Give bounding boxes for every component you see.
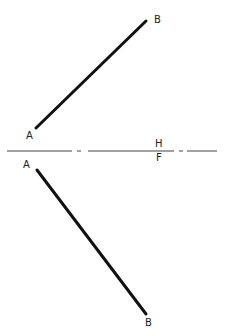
label-fold-h: H xyxy=(155,139,163,149)
label-bottom-b: B xyxy=(145,318,152,328)
top-view-line-ab xyxy=(36,21,146,128)
label-bottom-a: A xyxy=(23,160,30,170)
orthographic-projection-diagram xyxy=(0,0,231,336)
front-view-line-ab xyxy=(37,170,146,314)
label-top-b: B xyxy=(154,15,161,25)
label-fold-f: F xyxy=(156,153,162,163)
label-top-a: A xyxy=(26,131,33,141)
